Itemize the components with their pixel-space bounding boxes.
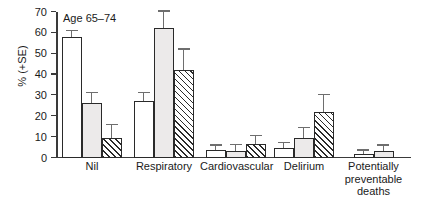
error-bar — [383, 146, 384, 151]
x-axis-category-label: Delirium — [272, 160, 336, 198]
bar-group — [336, 12, 411, 158]
bar[interactable] — [354, 154, 374, 158]
bar-group — [128, 12, 200, 158]
bar[interactable] — [174, 70, 194, 158]
bar[interactable] — [62, 37, 82, 158]
error-bar — [303, 128, 304, 138]
error-bar-cap — [230, 144, 242, 145]
error-bar-cap — [250, 135, 262, 136]
bar[interactable] — [314, 112, 334, 158]
y-axis-tick — [51, 115, 56, 116]
bar-groups — [56, 12, 411, 158]
bar-slot — [174, 12, 194, 158]
error-bar-cap — [178, 48, 190, 49]
bar-slot — [226, 12, 246, 158]
x-axis-category-label: Nil — [56, 160, 128, 198]
bar-chart: % (+SE) 010203040506070 Age 65–74 NilRes… — [0, 0, 429, 207]
error-bar — [235, 145, 236, 151]
bar-group — [200, 12, 272, 158]
y-axis-tick-label: 20 — [23, 111, 47, 122]
y-axis-tick-label: 50 — [23, 48, 47, 59]
error-bar — [111, 125, 112, 138]
error-bar-cap — [278, 142, 290, 143]
bar[interactable] — [82, 103, 102, 158]
bar[interactable] — [154, 28, 174, 158]
plot-area: 010203040506070 — [56, 12, 411, 158]
y-axis-tick-label: 60 — [23, 27, 47, 38]
error-bar — [91, 93, 92, 103]
bar-slot — [294, 12, 314, 158]
error-bar-cap — [298, 127, 310, 128]
bar-slot — [102, 12, 122, 158]
x-axis-category-label: Cardiovascular — [200, 160, 272, 198]
bar[interactable] — [134, 101, 154, 158]
bar-slot — [134, 12, 154, 158]
error-bar — [215, 146, 216, 150]
y-axis-tick — [51, 94, 56, 95]
error-bar-cap — [377, 144, 389, 145]
y-axis-tick — [51, 32, 56, 33]
y-axis-tick-label: 70 — [23, 7, 47, 18]
error-bar-cap — [318, 94, 330, 95]
y-axis-tick — [51, 53, 56, 54]
bar-group — [56, 12, 128, 158]
bar-slot — [82, 12, 102, 158]
bar-slot — [314, 12, 334, 158]
bar-slot — [374, 12, 394, 158]
error-bar — [323, 95, 324, 112]
error-bar-cap — [210, 144, 222, 145]
bar-slot — [274, 12, 294, 158]
error-bar-cap — [66, 30, 78, 31]
y-axis-tick — [51, 136, 56, 137]
error-bar-cap — [138, 92, 150, 93]
y-axis-tick — [51, 11, 56, 12]
bar-slot — [246, 12, 266, 158]
bar-slot — [62, 12, 82, 158]
x-axis-category-label: Potentiallypreventabledeaths — [336, 160, 411, 198]
y-axis-tick-label: 40 — [23, 69, 47, 80]
bar-slot — [154, 12, 174, 158]
error-bar — [143, 93, 144, 101]
error-bar-cap — [86, 92, 98, 93]
error-bar — [363, 151, 364, 154]
x-axis-category-labels: NilRespiratoryCardiovascularDeliriumPote… — [56, 160, 411, 198]
y-axis-tick — [51, 157, 56, 158]
error-bar — [283, 143, 284, 147]
y-axis-tick — [51, 73, 56, 74]
x-axis-category-label: Respiratory — [128, 160, 200, 198]
error-bar — [71, 31, 72, 37]
error-bar-cap — [106, 124, 118, 125]
bar[interactable] — [294, 138, 314, 158]
error-bar-cap — [158, 10, 170, 11]
bar[interactable] — [102, 138, 122, 158]
bar[interactable] — [206, 150, 226, 158]
plot-title: Age 65–74 — [63, 12, 116, 24]
bar[interactable] — [374, 151, 394, 158]
bar-group — [272, 12, 336, 158]
error-bar — [255, 136, 256, 144]
error-bar-cap — [357, 149, 369, 150]
error-bar — [183, 50, 184, 71]
y-axis-tick-label: 0 — [23, 153, 47, 164]
y-axis-tick-label: 10 — [23, 132, 47, 143]
bar-slot — [206, 12, 226, 158]
error-bar — [163, 12, 164, 29]
bar[interactable] — [274, 148, 294, 158]
bar[interactable] — [246, 144, 266, 158]
y-axis-tick-label: 30 — [23, 90, 47, 101]
bar[interactable] — [226, 151, 246, 158]
bar-slot — [354, 12, 374, 158]
